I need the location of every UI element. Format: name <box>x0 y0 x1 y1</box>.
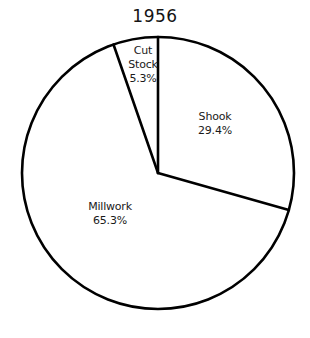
slice-label-shook: Shook 29.4% <box>183 110 247 138</box>
slice-value-cut-stock: 5.3% <box>114 72 172 86</box>
slice-label-millwork-name: Millwork <box>70 200 150 214</box>
slice-label-cut-stock-line1: Cut <box>114 44 172 58</box>
slice-label-shook-name: Shook <box>183 110 247 124</box>
slice-value-shook: 29.4% <box>183 124 247 138</box>
slice-label-millwork: Millwork 65.3% <box>70 200 150 228</box>
slice-label-cut-stock: Cut Stock 5.3% <box>114 44 172 86</box>
slice-value-millwork: 65.3% <box>70 214 150 228</box>
slice-label-cut-stock-line2: Stock <box>114 58 172 72</box>
pie-chart-figure: 1956 Cut Stock 5.3% Shook 29.4% Millwork… <box>0 0 310 338</box>
